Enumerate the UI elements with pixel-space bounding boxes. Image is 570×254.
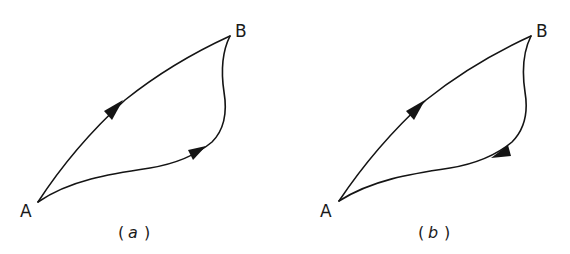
point-label-b-start: A — [320, 201, 332, 221]
caption-a-open: ( — [118, 223, 124, 242]
upper-path-b — [339, 36, 531, 201]
caption-a-letter: a — [128, 223, 138, 242]
path-diagram: A B ( a ) A B ( b ) — [0, 0, 570, 254]
upper-path-a — [38, 36, 230, 202]
point-label-b-end: B — [536, 21, 548, 41]
point-label-a-end: B — [235, 21, 247, 41]
lower-path-a — [38, 36, 230, 202]
lower-path-b — [339, 36, 531, 201]
arrow-icon-lower-a — [188, 146, 206, 160]
caption-b-open: ( — [418, 223, 424, 242]
arrow-icon-lower-b — [491, 145, 511, 158]
point-label-a-start: A — [20, 201, 32, 221]
panel-b: A B ( b ) — [320, 21, 548, 242]
caption-b-close: ) — [444, 223, 450, 242]
caption-b-letter: b — [428, 223, 438, 242]
caption-a-close: ) — [144, 223, 150, 242]
panel-a: A B ( a ) — [20, 21, 247, 242]
